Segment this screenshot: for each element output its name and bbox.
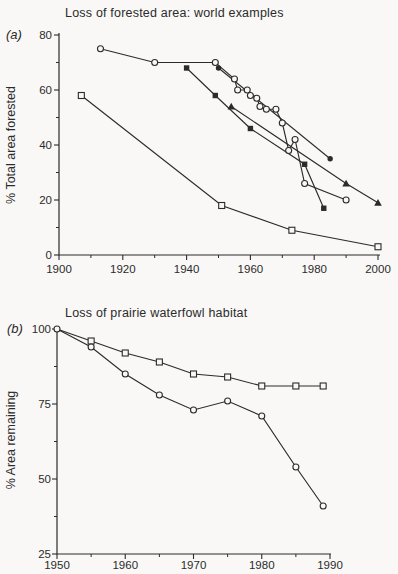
- tick-label: 1950: [44, 559, 70, 571]
- data-point-square-filled: [213, 93, 218, 98]
- open-circle-series-line: [57, 329, 323, 506]
- data-point-square-open: [78, 93, 84, 99]
- data-point-circle-open: [156, 392, 162, 398]
- tick-label: 60: [39, 84, 52, 96]
- filled-triangle-series-line: [231, 107, 378, 203]
- tick-label: 100: [32, 323, 51, 335]
- data-point-circle-open: [279, 120, 285, 126]
- tick-label: 1980: [301, 263, 327, 275]
- data-point-circle-open: [231, 76, 237, 82]
- data-point-square-open: [122, 350, 128, 356]
- tick-label: 25: [38, 548, 51, 560]
- data-point-circle-open: [88, 344, 94, 350]
- tick-label: 1920: [110, 263, 136, 275]
- data-point-square-filled: [321, 206, 326, 211]
- data-point-square-open: [259, 383, 265, 389]
- data-point-circle-open: [263, 106, 269, 112]
- data-point-triangle-filled: [374, 199, 382, 206]
- tick-label: 1960: [238, 263, 264, 275]
- panel-a: Loss of forested area: world examples (a…: [0, 0, 398, 287]
- tick-label: 1980: [249, 559, 275, 571]
- data-point-circle-open: [273, 106, 279, 112]
- tick-label: 1990: [317, 559, 343, 571]
- tick-label: 75: [38, 398, 51, 410]
- tick-label: 80: [39, 29, 52, 41]
- data-point-triangle-filled: [342, 180, 350, 187]
- data-point-triangle-filled: [227, 103, 235, 110]
- tick-label: 1900: [46, 263, 72, 275]
- tick-label: 1940: [174, 263, 200, 275]
- data-point-circle-open: [244, 87, 250, 93]
- data-point-circle-filled: [327, 156, 332, 161]
- data-point-circle-open: [302, 181, 308, 187]
- data-point-square-open: [191, 371, 197, 377]
- data-point-circle-open: [191, 407, 197, 413]
- data-point-square-filled: [184, 65, 189, 70]
- data-point-circle-open: [247, 93, 253, 99]
- tick-label: 20: [39, 194, 52, 206]
- panel-b: Loss of prairie waterfowl habitat (b) % …: [0, 287, 398, 574]
- data-point-square-open: [156, 359, 162, 365]
- axes: [57, 327, 331, 554]
- data-point-circle-open: [292, 137, 298, 143]
- filled-square-series-line: [187, 68, 324, 208]
- data-point-circle-open: [254, 95, 260, 101]
- data-point-circle-open: [97, 46, 103, 52]
- tick-label: 50: [38, 473, 51, 485]
- data-point-square-open: [225, 374, 231, 380]
- data-point-circle-open: [259, 413, 265, 419]
- tick-label: 2000: [365, 263, 391, 275]
- chart-a-canvas: 190019201940196019802000020406080: [0, 0, 398, 287]
- data-point-circle-open: [54, 326, 60, 332]
- figure-page: Loss of forested area: world examples (a…: [0, 0, 398, 574]
- data-point-circle-filled: [216, 65, 221, 70]
- data-point-square-filled: [248, 126, 253, 131]
- data-point-square-open: [219, 203, 225, 209]
- data-point-circle-open: [257, 104, 263, 110]
- data-point-circle-open: [235, 87, 241, 93]
- tick-label: 0: [46, 249, 52, 261]
- data-point-square-open: [320, 383, 326, 389]
- data-point-square-filled: [302, 162, 307, 167]
- chart-b-canvas: 19501960197019801990255075100: [0, 287, 398, 574]
- tick-label: 40: [39, 139, 52, 151]
- data-point-circle-open: [286, 148, 292, 154]
- data-point-circle-open: [212, 60, 218, 66]
- data-point-circle-open: [225, 398, 231, 404]
- data-point-square-open: [375, 244, 381, 250]
- open-square-series-line: [81, 96, 378, 247]
- data-point-square-open: [88, 338, 94, 344]
- tick-label: 1970: [181, 559, 207, 571]
- data-point-square-open: [293, 383, 299, 389]
- data-point-circle-open: [122, 371, 128, 377]
- data-point-square-open: [289, 227, 295, 233]
- data-point-circle-open: [343, 197, 349, 203]
- data-point-circle-open: [293, 464, 299, 470]
- tick-label: 1960: [112, 559, 138, 571]
- data-point-circle-open: [320, 503, 326, 509]
- data-point-circle-open: [152, 60, 158, 66]
